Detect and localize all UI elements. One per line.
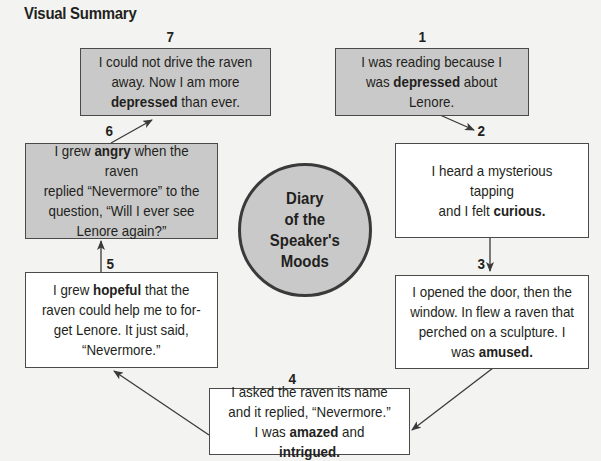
step-text-segment: away. Now I am more [111,74,239,90]
mood-word: curious. [493,203,545,219]
step-text-segment: replied “Nevermore” to the [44,183,200,199]
step-number-3: 3 [477,255,485,272]
step-text-segment: I heard a mysterious tapping [432,163,553,199]
mood-word: hopeful [93,282,141,298]
step-number-2: 2 [477,122,485,139]
mood-word: angry [94,143,130,159]
step-box-5: I grew hopeful that theraven could help … [25,272,218,368]
arrow-3-to-4 [412,368,493,430]
step-box-2: I heard a mysterious tappingand I felt c… [395,143,589,238]
step-text-segment: and [338,424,364,440]
step-text-segment: perched on a sculpture. I [419,324,566,340]
step-text-segment: I grew [53,282,93,298]
center-line-2: of the [270,209,340,230]
step-text-segment: “Nevermore.” [82,342,161,358]
mood-word: depressed [111,94,178,110]
step-text-segment: I could not drive the raven [99,54,253,70]
step-text-segment: I grew [54,143,94,159]
step-text-segment: about [461,74,498,90]
center-line-1: Diary [270,188,340,209]
arrow-1-to-2 [440,115,474,130]
step-number-5: 5 [106,255,114,272]
arrow-6-to-7 [111,120,152,143]
step-text-7: I could not drive the ravenaway. Now I a… [99,52,253,112]
step-text-segment: question, “Will I ever see [48,203,194,219]
step-text-segment: than ever. [178,94,240,110]
step-text-5: I grew hopeful that theraven could help … [42,280,201,360]
center-circle: Diary of the Speaker's Moods [238,163,372,297]
center-line-3: Speaker's [270,230,340,251]
step-text-segment: was [366,74,393,90]
center-line-4: Moods [270,251,340,272]
step-number-1: 1 [418,28,426,45]
step-text-segment: I was [255,424,290,440]
step-text-segment: window. In flew a raven that [410,304,574,320]
step-text-segment: I was reading because I [362,54,503,70]
arrow-4-to-5 [114,371,209,435]
step-text-3: I opened the door, then thewindow. In fl… [410,282,574,362]
step-text-segment: I opened the door, then the [412,284,571,300]
mood-word: intrigued. [279,444,340,460]
step-text-4: I asked the raven its nameand it replied… [223,382,395,461]
step-number-7: 7 [166,28,174,45]
step-text-segment: Lenore. [409,94,454,110]
step-box-6: I grew angry when the ravenreplied “Neve… [25,143,218,239]
mood-word: amazed [289,424,338,440]
step-box-4: I asked the raven its nameand it replied… [209,388,410,455]
step-text-segment: I asked the raven its name [231,384,387,400]
step-text-segment: and I felt [439,203,494,219]
step-text-segment: Lenore again?” [77,223,167,239]
mood-word: depressed [394,74,461,90]
step-text-segment: was [451,344,478,360]
step-text-6: I grew angry when the ravenreplied “Neve… [39,141,204,241]
step-box-1: I was reading because Iwas depressed abo… [335,48,529,116]
step-text-segment: and it replied, “Nevermore.” [228,404,390,420]
step-text-segment: raven could help me to for- [42,302,201,318]
mood-word: amused. [479,344,533,360]
step-text-segment: get Lenore. It just said, [54,322,189,338]
step-text-2: I heard a mysterious tappingand I felt c… [409,161,575,221]
step-text-segment: that the [141,282,189,298]
step-box-3: I opened the door, then thewindow. In fl… [395,275,589,369]
step-box-7: I could not drive the ravenaway. Now I a… [80,48,271,116]
step-text-1: I was reading because Iwas depressed abo… [362,52,503,112]
step-number-6: 6 [105,122,113,139]
